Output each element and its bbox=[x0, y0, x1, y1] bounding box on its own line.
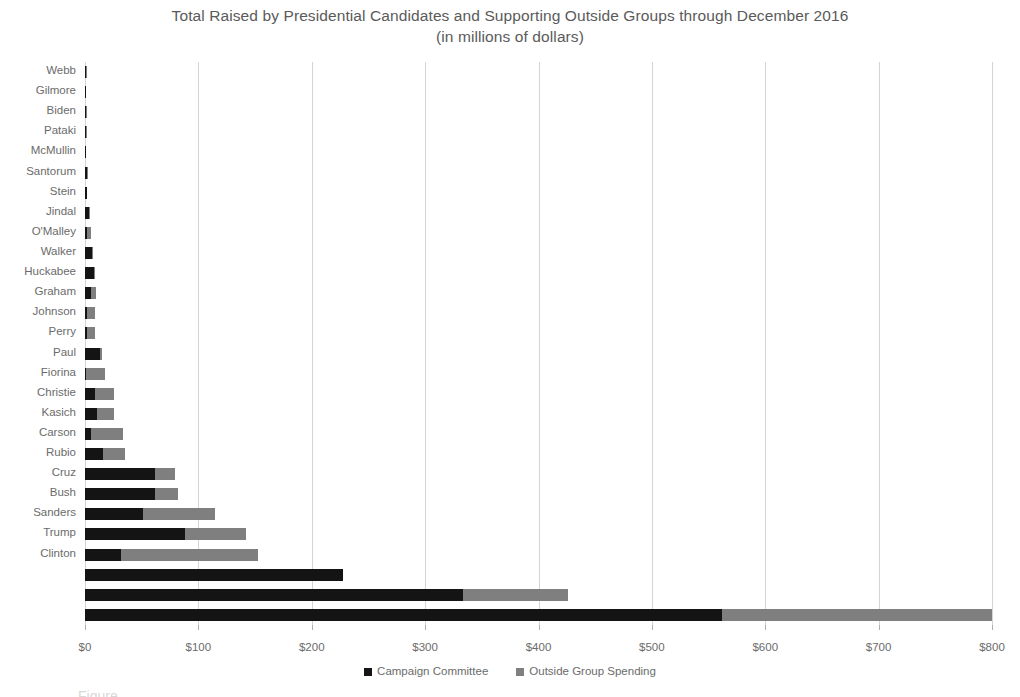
y-axis-tick-label: Pataki bbox=[0, 124, 76, 136]
bar-segment-outside-group-spending bbox=[86, 106, 87, 118]
bar-segment-campaign-committee bbox=[85, 267, 94, 279]
bar-row bbox=[85, 424, 992, 444]
bar-row bbox=[85, 102, 992, 122]
figure-caption-partial: Figure bbox=[78, 688, 118, 697]
x-axis-tick-label: $800 bbox=[979, 641, 1005, 653]
bar-row bbox=[85, 203, 992, 223]
bar-segment-campaign-committee bbox=[85, 549, 121, 561]
bar-row bbox=[85, 82, 992, 102]
y-axis-tick-label: Biden bbox=[0, 104, 76, 116]
bar-segment-outside-group-spending bbox=[722, 609, 992, 621]
bar-segment-outside-group-spending bbox=[463, 589, 568, 601]
bar-segment-campaign-committee bbox=[85, 609, 722, 621]
bar-row bbox=[85, 565, 992, 585]
bar-segment-outside-group-spending bbox=[103, 448, 125, 460]
bar-segment-outside-group-spending bbox=[87, 227, 91, 239]
bar-segment-outside-group-spending bbox=[86, 126, 87, 138]
bar-row bbox=[85, 464, 992, 484]
y-axis-tick-label: Webb bbox=[0, 64, 76, 76]
bar-segment-campaign-committee bbox=[85, 528, 185, 540]
bar-segment-outside-group-spending bbox=[91, 428, 123, 440]
bar-segment-campaign-committee bbox=[85, 448, 103, 460]
bar-segment-campaign-committee bbox=[85, 488, 155, 500]
bar-segment-campaign-committee bbox=[85, 408, 97, 420]
y-axis-tick-label: Gilmore bbox=[0, 84, 76, 96]
bar-row bbox=[85, 223, 992, 243]
bar-row bbox=[85, 243, 992, 263]
bar-row bbox=[85, 404, 992, 424]
x-axis-tick-label: $200 bbox=[299, 641, 325, 653]
bar-segment-outside-group-spending bbox=[97, 408, 114, 420]
x-axis-tick-mark bbox=[652, 625, 653, 630]
x-axis-tick-mark bbox=[312, 625, 313, 630]
bar-segment-outside-group-spending bbox=[95, 388, 114, 400]
bar-segment-outside-group-spending bbox=[91, 287, 96, 299]
bar-row bbox=[85, 444, 992, 464]
x-axis-tick-label: $300 bbox=[412, 641, 438, 653]
legend-item[interactable]: Outside Group Spending bbox=[516, 665, 656, 677]
x-axis-tick-label: $0 bbox=[79, 641, 92, 653]
x-axis-tick-mark bbox=[879, 625, 880, 630]
x-axis-tick-mark bbox=[539, 625, 540, 630]
bar-segment-outside-group-spending bbox=[87, 327, 95, 339]
chart-legend: Campaign CommitteeOutside Group Spending bbox=[0, 665, 1020, 677]
legend-swatch-icon bbox=[364, 668, 372, 676]
bar-row bbox=[85, 524, 992, 544]
chart-subtitle: (in millions of dollars) bbox=[0, 27, 1020, 48]
x-axis-tick-label: $100 bbox=[186, 641, 212, 653]
bar-row bbox=[85, 163, 992, 183]
x-axis-tick-label: $400 bbox=[526, 641, 552, 653]
y-axis-tick-label: Kasich bbox=[0, 406, 76, 418]
bar-segment-outside-group-spending bbox=[121, 549, 258, 561]
y-axis-tick-label: Christie bbox=[0, 386, 76, 398]
y-axis-tick-label: Graham bbox=[0, 285, 76, 297]
bar-segment-campaign-committee bbox=[85, 348, 100, 360]
x-axis-tick-mark bbox=[425, 625, 426, 630]
bar-row bbox=[85, 283, 992, 303]
bar-row bbox=[85, 323, 992, 343]
bar-row bbox=[85, 303, 992, 323]
bar-segment-campaign-committee bbox=[85, 508, 143, 520]
legend-item-label: Outside Group Spending bbox=[529, 665, 656, 677]
bar-row bbox=[85, 484, 992, 504]
chart-title-block: Total Raised by Presidential Candidates … bbox=[0, 6, 1020, 48]
bar-segment-campaign-committee bbox=[85, 569, 343, 581]
y-axis-tick-label: Sanders bbox=[0, 506, 76, 518]
bar-row bbox=[85, 263, 992, 283]
y-axis-tick-label: Fiorina bbox=[0, 366, 76, 378]
y-axis-tick-label: Bush bbox=[0, 486, 76, 498]
bar-segment-outside-group-spending bbox=[87, 167, 88, 179]
y-axis-tick-label: Cruz bbox=[0, 466, 76, 478]
bar-segment-campaign-committee bbox=[85, 146, 86, 158]
legend-item[interactable]: Campaign Committee bbox=[364, 665, 488, 677]
bar-segment-campaign-committee bbox=[85, 247, 92, 259]
bar-chart: Total Raised by Presidential Candidates … bbox=[0, 0, 1020, 697]
y-axis-tick-label: Carson bbox=[0, 426, 76, 438]
x-axis-tick-mark bbox=[765, 625, 766, 630]
y-axis-tick-label: Walker bbox=[0, 245, 76, 257]
x-axis-tick-mark bbox=[85, 625, 86, 630]
bar-row bbox=[85, 183, 992, 203]
chart-title: Total Raised by Presidential Candidates … bbox=[0, 6, 1020, 27]
legend-swatch-icon bbox=[516, 668, 524, 676]
bar-row bbox=[85, 344, 992, 364]
x-axis-tick-label: $500 bbox=[639, 641, 665, 653]
y-axis-tick-label: Trump bbox=[0, 526, 76, 538]
y-axis-tick-label: McMullin bbox=[0, 144, 76, 156]
y-axis-tick-label: Jindal bbox=[0, 205, 76, 217]
y-axis-tick-label: Perry bbox=[0, 325, 76, 337]
bar-row bbox=[85, 504, 992, 524]
x-axis-tick-mark bbox=[992, 625, 993, 630]
bar-segment-campaign-committee bbox=[85, 589, 463, 601]
bar-segment-outside-group-spending bbox=[86, 368, 106, 380]
bar-row bbox=[85, 142, 992, 162]
y-axis-tick-label: Johnson bbox=[0, 305, 76, 317]
bar-row bbox=[85, 122, 992, 142]
bar-row bbox=[85, 384, 992, 404]
bar-row bbox=[85, 605, 992, 625]
x-axis-tick-mark bbox=[198, 625, 199, 630]
bar-segment-campaign-committee bbox=[85, 187, 87, 199]
x-axis-tick-label: $600 bbox=[752, 641, 778, 653]
bar-segment-outside-group-spending bbox=[100, 348, 102, 360]
bar-segment-campaign-committee bbox=[85, 86, 86, 98]
